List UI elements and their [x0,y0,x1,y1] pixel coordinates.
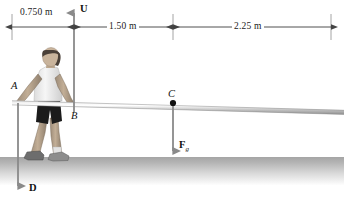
weight-subscript: g [185,145,189,153]
label-point-b: B [71,110,77,121]
dim-label-right: 2.25 m [232,21,264,31]
dimension-line [12,14,331,40]
dim-label-middle: 1.50 m [107,21,139,31]
ground-surface [0,158,344,186]
pole [12,101,344,115]
label-vector-Fg: Fg [179,139,189,153]
label-vector-D: D [29,182,37,193]
dim-label-left: 0.750 m [18,7,55,17]
label-point-c: C [168,88,175,99]
diagram-graphics [0,0,344,201]
point-c-marker [170,100,176,106]
label-vector-U: U [80,3,88,14]
physics-figure: 0.750 m 1.50 m 2.25 m U D A B C Fg [0,0,344,201]
label-point-a: A [11,80,17,91]
